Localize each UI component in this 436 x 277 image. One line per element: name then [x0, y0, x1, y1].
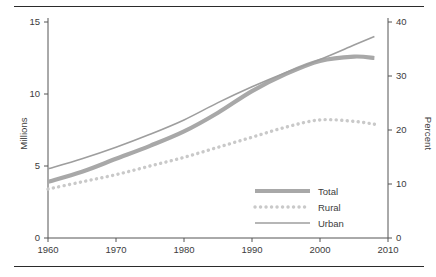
y-axis-right-tick-label: 0 [396, 232, 401, 243]
x-axis-tick-label: 1980 [173, 244, 194, 255]
y-axis-right-tick-label: 30 [396, 70, 407, 81]
x-axis-tick-label: 1990 [241, 244, 262, 255]
chart-legend: TotalRuralUrban [255, 186, 344, 229]
y-axis-left-tick-label: 0 [35, 232, 40, 243]
legend-label-urban: Urban [318, 218, 344, 229]
x-axis-ticks: 196019701980199020002010 [37, 238, 398, 255]
y-axis-right-ticks: 010203040 [388, 16, 407, 243]
y-axis-left-tick-label: 5 [35, 160, 40, 171]
x-axis-tick-label: 2010 [377, 244, 398, 255]
y-axis-left-tick-label: 15 [29, 16, 40, 27]
y-axis-right-tick-label: 40 [396, 16, 407, 27]
data-series-group [48, 36, 374, 189]
series-line-urban [48, 36, 374, 168]
x-axis-tick-label: 2000 [309, 244, 330, 255]
y-axis-right-tick-label: 10 [396, 178, 407, 189]
legend-label-rural: Rural [318, 202, 341, 213]
y-axis-left-ticks: 051015 [29, 16, 48, 243]
chart-figure: Millions Percent 051015 010203040 196019… [0, 0, 436, 277]
plot-area: 051015 010203040 19601970198019902000201… [0, 0, 436, 277]
y-axis-left-tick-label: 10 [29, 88, 40, 99]
x-axis-tick-label: 1970 [105, 244, 126, 255]
legend-label-total: Total [318, 186, 338, 197]
x-axis-tick-label: 1960 [37, 244, 58, 255]
y-axis-right-tick-label: 20 [396, 124, 407, 135]
